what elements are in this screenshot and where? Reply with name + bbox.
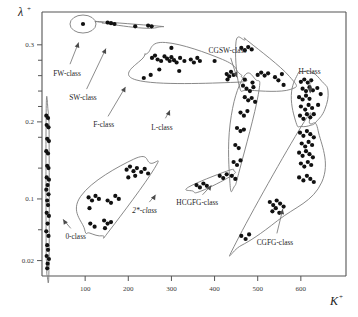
x-tick-label: 600 xyxy=(296,285,307,293)
data-point xyxy=(47,139,51,143)
x-tick-label: 500 xyxy=(252,285,263,293)
data-point xyxy=(251,85,255,89)
y-tick-label: 0.1 xyxy=(25,195,34,203)
data-point xyxy=(309,163,313,167)
data-point xyxy=(194,183,198,187)
data-point xyxy=(109,201,113,205)
data-point xyxy=(250,96,254,100)
data-point xyxy=(150,24,154,28)
data-point xyxy=(312,135,316,139)
data-point xyxy=(312,112,316,116)
data-point xyxy=(142,76,146,80)
data-point xyxy=(242,128,246,132)
data-point xyxy=(308,132,312,136)
data-point xyxy=(304,89,308,93)
data-point xyxy=(198,59,202,63)
data-point xyxy=(46,234,50,238)
data-point xyxy=(46,183,50,187)
data-point xyxy=(182,59,186,63)
data-point xyxy=(278,202,282,206)
data-point xyxy=(310,106,314,110)
data-point xyxy=(235,126,239,130)
data-point xyxy=(244,87,248,91)
data-point xyxy=(149,73,153,77)
data-point xyxy=(46,222,50,226)
data-point xyxy=(250,47,254,51)
data-point xyxy=(46,262,50,266)
data-point xyxy=(305,112,309,116)
data-point xyxy=(235,163,239,167)
data-point xyxy=(308,115,312,119)
data-point xyxy=(298,131,302,135)
data-point xyxy=(248,89,252,93)
data-point xyxy=(46,151,50,155)
data-point xyxy=(238,111,242,115)
data-point xyxy=(225,77,229,81)
data-point xyxy=(297,95,301,99)
data-point xyxy=(263,74,267,78)
data-point xyxy=(213,59,217,63)
data-point xyxy=(243,77,247,81)
class-annotation-label: HCGFG-class xyxy=(176,198,218,207)
data-point xyxy=(88,222,92,226)
data-point xyxy=(221,176,225,180)
data-point xyxy=(157,67,161,71)
y-tick-label: 0.02 xyxy=(22,257,35,265)
data-point xyxy=(282,205,286,209)
data-point xyxy=(133,174,137,178)
data-point xyxy=(178,56,182,60)
data-point xyxy=(305,129,309,133)
x-tick-label: 200 xyxy=(123,285,134,293)
data-point xyxy=(301,87,305,91)
data-point xyxy=(297,151,301,155)
data-point xyxy=(109,21,113,25)
x-tick-label: 400 xyxy=(209,285,220,293)
data-point xyxy=(139,170,143,174)
data-point xyxy=(302,77,306,81)
data-point xyxy=(232,160,236,164)
data-point xyxy=(316,103,320,107)
data-point xyxy=(302,165,306,169)
annotation-leader-line xyxy=(108,87,126,117)
data-point xyxy=(307,97,311,101)
data-point xyxy=(297,175,301,179)
data-point xyxy=(46,125,50,129)
data-point xyxy=(299,104,303,108)
data-point xyxy=(273,75,277,79)
plot-canvas: 0.020.10.20.3100200300400500600λ+K+FW-cl… xyxy=(0,0,358,317)
data-point xyxy=(45,198,49,202)
annotation-leader-line xyxy=(87,49,106,90)
data-point xyxy=(304,94,308,98)
data-point xyxy=(308,177,312,181)
annotation-arrowhead xyxy=(75,42,80,48)
data-point xyxy=(230,174,234,178)
data-point xyxy=(298,114,302,118)
data-point xyxy=(131,169,135,173)
data-point xyxy=(159,59,163,63)
data-point xyxy=(301,134,305,138)
data-point xyxy=(303,108,307,112)
data-point xyxy=(307,140,311,144)
data-point xyxy=(198,185,202,189)
data-point xyxy=(243,95,247,99)
data-point xyxy=(310,143,314,147)
class-annotation-label: CGSW-class xyxy=(209,46,247,55)
data-point xyxy=(259,71,263,75)
data-point xyxy=(250,81,254,85)
data-point xyxy=(87,195,91,199)
data-point xyxy=(275,198,279,202)
data-point xyxy=(97,197,101,201)
data-point xyxy=(106,198,110,202)
data-point xyxy=(268,200,272,204)
class-boundary-sw-class xyxy=(95,21,164,28)
data-point xyxy=(300,141,304,145)
data-point xyxy=(299,161,303,165)
data-point xyxy=(81,22,85,26)
data-point xyxy=(256,73,260,77)
data-point xyxy=(246,45,250,49)
data-point xyxy=(201,181,205,185)
data-point xyxy=(46,203,50,207)
y-tick-label: 0.3 xyxy=(25,41,34,49)
data-point xyxy=(301,178,305,182)
data-point xyxy=(135,166,139,170)
